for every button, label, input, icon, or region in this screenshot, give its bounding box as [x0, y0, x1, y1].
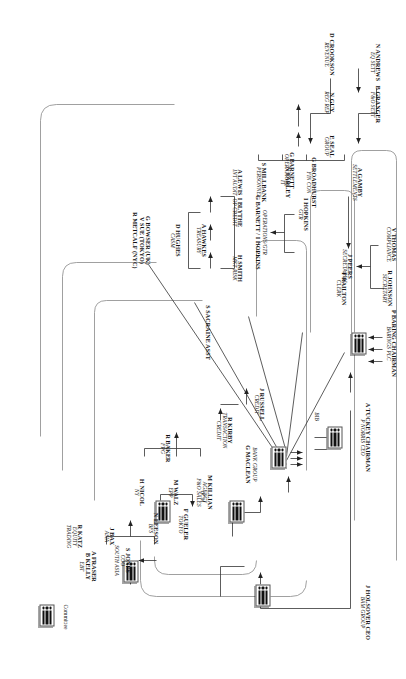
committee-row — [264, 586, 267, 603]
node-name: A FRASER — [90, 551, 96, 582]
node-baker[interactable]: R BAKER FPG — [158, 434, 170, 462]
node-blythe[interactable]: I BLYTHE OP CREDIT — [230, 197, 242, 227]
node-johnson[interactable]: R JOHNSON SECRETARY — [380, 270, 392, 306]
committee-row — [330, 428, 333, 445]
committee-row — [277, 448, 280, 465]
node-role: TOKYO — [176, 508, 182, 539]
node-role: FIN CON — [304, 157, 310, 207]
org-chart-page: Committee P BARING CHAIRMAN BARINGS PLC … — [0, 0, 406, 679]
committee-row — [280, 448, 283, 465]
node-jones[interactable]: S JONES COO SOUTH ASIA — [112, 545, 130, 576]
node-andrews[interactable]: N ANDREWS EQ SETT — [368, 43, 380, 81]
node-kirby[interactable]: R KIRBY TRANSACTION CREDIT — [214, 412, 232, 448]
node-role: CASM — [168, 224, 174, 257]
node-gueler[interactable]: F GUELER TOKYO — [176, 508, 188, 539]
node-role: TREASURY — [194, 223, 200, 256]
committee-row — [357, 334, 360, 351]
committee-row — [48, 606, 51, 623]
committee-row — [274, 448, 277, 465]
node-role: G BARNETT / I HOPKINS — [254, 195, 260, 269]
node-thomas[interactable]: V THOMAS COMPLIANCE — [384, 227, 396, 262]
committee-box-bank-group[interactable] — [271, 446, 286, 468]
node-role-2: SOUTH ASIA — [112, 545, 118, 576]
node-holsover[interactable]: J HOLSOVER CEO BAM GROUP — [358, 584, 370, 639]
node-role: V SUE (TOKYO) — [137, 212, 143, 268]
node-hawkes[interactable]: A HAWKES TREASURY — [194, 223, 206, 256]
node-killian[interactable]: M KILLIAN AGENCY F&O SALES — [194, 475, 212, 510]
committee-box-legend — [39, 604, 54, 626]
committee-row — [354, 334, 357, 351]
node-role: EPP — [166, 479, 172, 505]
node-railton[interactable]: T RAILTON CLERK — [334, 271, 346, 305]
node-seal[interactable]: E SEAL GROUP — [322, 135, 334, 157]
node-hughes[interactable]: D HUGHES CASM — [168, 224, 180, 257]
node-lewis[interactable]: A LEWIS INT AUDIT — [230, 169, 242, 195]
node-name: BANK GROUP — [250, 445, 256, 484]
node-nicol[interactable]: H NICOL NY — [132, 479, 144, 506]
node-role: OP CREDIT — [230, 197, 236, 227]
node-role-2: EBT — [78, 551, 84, 582]
node-baring[interactable]: P BARING CHAIRMAN BARINGS PLC — [384, 309, 396, 376]
node-role-2: F&O SALES — [194, 475, 200, 510]
node-name: G BOWSER (UK) — [144, 212, 150, 268]
node-role: ASIA — [102, 527, 108, 545]
committee-box-holsover[interactable] — [255, 584, 270, 606]
node-tuckey-tag: BIB — [312, 412, 318, 421]
node-granger[interactable]: B GRANGER F&O SETT — [368, 85, 380, 123]
node-role: G MACLEAN — [244, 445, 250, 484]
node-role: BFS — [146, 512, 152, 543]
node-role: REG REP — [322, 91, 328, 113]
node-millbank[interactable]: S MILLBANK PERSONNEL — [254, 162, 266, 202]
legend-committee-label: Committee — [62, 604, 68, 629]
node-smith[interactable]: H SMITH MKT RISK — [230, 254, 242, 281]
committee-row — [45, 606, 48, 623]
node-role: SETTLEMENTS — [350, 164, 356, 200]
committee-row — [333, 428, 336, 445]
node-role-2: TRADING — [64, 524, 70, 547]
node-fraser[interactable]: A FRASER B KELLY EBT — [78, 551, 96, 582]
node-katz[interactable]: R KATZ EQUITY TRADING — [64, 524, 82, 547]
committee-row — [360, 334, 363, 351]
node-role: GTR — [296, 198, 302, 231]
committee-box-bib[interactable] — [327, 426, 342, 448]
node-guy[interactable]: N GUY REG REP — [322, 91, 334, 113]
committee-row — [238, 502, 241, 519]
node-role: IT — [278, 166, 284, 197]
committee-row — [258, 586, 261, 603]
node-role: BARINGS PLC — [384, 309, 390, 376]
node-role: COMPLIANCE — [384, 227, 390, 262]
node-bowser[interactable]: G BOWSER (UK) V SUE (TOKYO) R METCALF (N… — [131, 212, 150, 268]
node-sacraine[interactable]: S SACRAINE ASST — [204, 305, 210, 360]
node-farley[interactable]: N FARLEY IT — [278, 166, 290, 197]
node-role-2: CREDIT — [214, 412, 220, 448]
node-role: NY — [132, 479, 138, 506]
node-role: CLERK — [334, 271, 340, 305]
committee-box-baring[interactable] — [351, 332, 366, 354]
node-role: INT AUDIT — [230, 169, 236, 195]
node-role: SECRETARY — [380, 270, 386, 306]
committee-row — [261, 586, 264, 603]
node-role: FPG — [158, 434, 164, 462]
committee-row — [161, 502, 164, 519]
committee-row — [42, 606, 45, 623]
node-role: P NORRIS CEO — [358, 402, 364, 471]
node-role: EQ SETT — [368, 43, 374, 81]
node-walz[interactable]: M WALZ EPP — [166, 479, 178, 505]
node-crookson[interactable]: D CROOKSON REVENUE — [322, 33, 334, 75]
committee-row — [235, 502, 238, 519]
node-leeson[interactable]: N LEESON BFS — [146, 512, 158, 543]
org-chart-canvas: Committee P BARING CHAIRMAN BARINGS PLC … — [0, 0, 406, 679]
committee-box-bcm[interactable] — [229, 500, 244, 522]
node-name: OPERATIONS/GTR — [260, 195, 266, 269]
node-tuckey[interactable]: A TUCKEY CHAIRMAN P NORRIS CEO — [358, 402, 370, 471]
node-bankgroup[interactable]: BANK GROUP G MACLEAN — [244, 445, 256, 484]
node-role: CREDIT — [252, 387, 258, 420]
connector-lines — [0, 0, 406, 679]
node-operations-gtr[interactable]: OPERATIONS/GTR G BARNETT / I HOPKINS — [254, 195, 266, 269]
committee-row — [232, 502, 235, 519]
node-role: MKT RISK — [230, 254, 236, 281]
node-gamby[interactable]: A GAMBY SETTLEMENTS — [350, 164, 362, 200]
node-bax[interactable]: J BAX ASIA — [102, 527, 114, 545]
node-russell[interactable]: J RUSSELL CREDIT — [252, 387, 264, 420]
node-broadhurst[interactable]: G BROADHURST FIN CON — [304, 157, 316, 207]
